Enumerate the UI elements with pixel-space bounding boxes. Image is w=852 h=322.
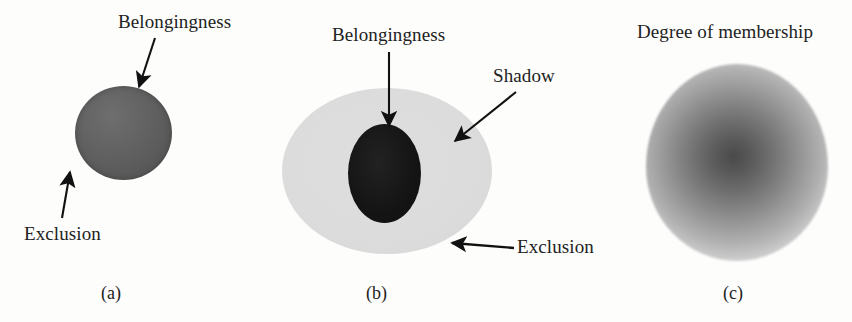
crisp-set-circle	[75, 86, 172, 180]
panel-c-caption: (c)	[723, 283, 743, 303]
panel-a-exclusion-label: Exclusion	[24, 224, 101, 244]
panel-c: Degree of membership (c)	[568, 0, 852, 322]
panel-a: Belongingness Exclusion (a)	[0, 0, 284, 322]
panel-c-degree-of-membership-label: Degree of membership	[637, 22, 813, 42]
figure-container: Belongingness Exclusion (a) Belongingnes…	[0, 0, 852, 322]
belongingness-ellipse	[348, 124, 421, 223]
panel-b-caption: (b)	[366, 283, 387, 303]
panel-b-shadow-label: Shadow	[493, 66, 555, 86]
panel-a-belongingness-label: Belongingness	[118, 12, 231, 32]
panel-b: Belongingness Shadow Exclusion (b)	[284, 0, 568, 322]
panel-b-belongingness-label: Belongingness	[332, 25, 445, 45]
panel-a-caption: (a)	[101, 283, 121, 303]
fuzzy-membership-blob	[646, 64, 828, 261]
